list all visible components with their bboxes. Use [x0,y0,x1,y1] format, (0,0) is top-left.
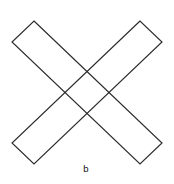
figure-caption: b [0,163,174,174]
x-shape-canvas [0,0,174,184]
figure-caption-text: b [83,163,88,174]
figure-root: 2 and 7 b [0,0,174,184]
